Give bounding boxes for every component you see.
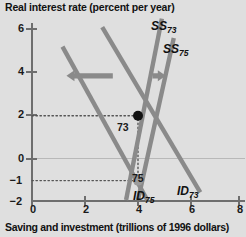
curve-label-ss75: SS75 <box>163 42 188 58</box>
y-tick-2 <box>26 114 37 116</box>
curve-label-id75-sub: 75 <box>145 195 154 205</box>
y-tick-4 <box>26 71 37 73</box>
ss-shift-arrow <box>153 70 166 81</box>
y-tick-label-6: 6 <box>2 22 24 34</box>
curve-label-ss73-sub: 73 <box>167 25 176 35</box>
curve-label-id75: ID75 <box>133 189 154 205</box>
x-tick-label-6: 6 <box>182 203 202 215</box>
curve-label-ss75-text: SS <box>163 42 179 56</box>
curve-label-ss73: SS73 <box>151 19 176 35</box>
y-tick-label-minus-1: −1 <box>0 174 22 186</box>
curve-label-id73: ID73 <box>177 184 198 200</box>
y-tick-label-0: 0 <box>2 152 24 164</box>
zero-reference-line <box>33 158 245 159</box>
x-tick-label-0: 0 <box>23 203 43 215</box>
id-shift-arrow <box>66 70 112 81</box>
equilibrium-label-75: 75 <box>132 172 144 184</box>
y-axis-title: Real interest rate (percent per year) <box>5 1 174 13</box>
shift-arrows-group <box>66 70 165 81</box>
x-tick-label-8: 8 <box>230 203 246 215</box>
curve-label-ss73-text: SS <box>151 19 167 33</box>
y-axis-line <box>31 23 33 201</box>
equilibrium-label-73: 73 <box>117 121 129 133</box>
equilibrium-marker-73 <box>133 111 143 121</box>
y-tick-0 <box>26 158 37 160</box>
x-tick-label-2: 2 <box>76 203 96 215</box>
y-tick-6 <box>26 28 37 30</box>
y-tick-label-4: 4 <box>2 65 24 77</box>
curve-label-ss75-sub: 75 <box>179 48 188 58</box>
y-tick-label-2: 2 <box>2 108 24 120</box>
saving-investment-chart: Real interest rate (percent per year) 6 … <box>0 0 246 237</box>
y-tick-label-minus-2: −2 <box>0 195 22 207</box>
curve-label-id73-sub: 73 <box>189 190 198 200</box>
x-axis-title: Saving and investment (trillions of 1996… <box>5 221 229 233</box>
curve-label-id73-text: ID <box>177 184 189 198</box>
curve-label-id75-text: ID <box>133 189 145 203</box>
